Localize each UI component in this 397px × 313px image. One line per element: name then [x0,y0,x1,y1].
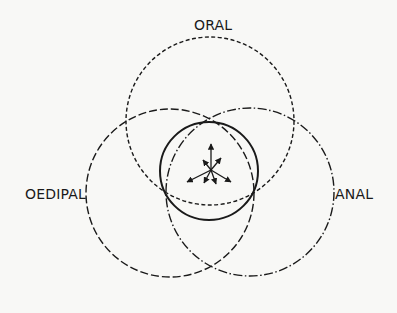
oedipal-circle [86,109,254,277]
arrow-upper-right-icon [211,158,221,170]
oral-circle [126,37,294,205]
oral-label: ORAL [194,18,232,32]
psychosexual-stages-diagram [0,0,397,313]
arrow-cluster [187,144,231,184]
anal-label: ANAL [335,187,373,201]
oedipal-label: OEDIPAL [25,187,86,201]
anal-circle [166,108,334,276]
arrow-upper-left-icon [203,160,211,170]
